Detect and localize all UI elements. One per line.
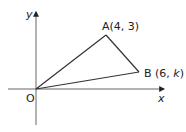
segment-AB bbox=[106, 35, 139, 72]
origin-label: O bbox=[26, 92, 35, 105]
segment-OB bbox=[36, 72, 139, 89]
diagram-canvas: y x O A(4, 3) B (6, k) bbox=[0, 0, 186, 132]
point-B-label: B (6, k) bbox=[144, 67, 184, 80]
y-axis-label: y bbox=[25, 8, 33, 21]
x-axis-label: x bbox=[157, 92, 165, 105]
point-B-label-suffix: ) bbox=[180, 67, 184, 80]
point-B-label-prefix: B (6, bbox=[144, 67, 173, 80]
segment-OA bbox=[36, 35, 106, 89]
point-A-label: A(4, 3) bbox=[102, 20, 139, 33]
